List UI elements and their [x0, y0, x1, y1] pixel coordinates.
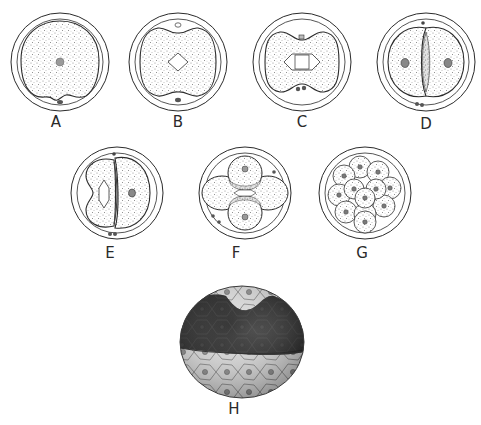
- cropped-header-text: [270, 0, 480, 3]
- stage-c-label: C: [292, 113, 312, 131]
- stage-d-label: D: [416, 115, 436, 133]
- stage-h-figure: [172, 282, 312, 400]
- stage-b-figure: [124, 8, 232, 116]
- stage-c-figure: [248, 8, 356, 116]
- stage-g-figure: [314, 142, 416, 244]
- stage-g-label: G: [352, 244, 372, 262]
- stage-f-figure: [194, 142, 296, 244]
- stage-d-figure: [372, 8, 480, 116]
- stage-a-figure: [6, 8, 114, 116]
- stage-b-label: B: [168, 113, 188, 131]
- stage-e-label: E: [100, 244, 120, 262]
- stage-e-figure: [66, 142, 168, 244]
- stage-a-label: A: [46, 113, 66, 131]
- stage-h-label: H: [224, 400, 244, 418]
- stage-f-label: F: [226, 244, 246, 262]
